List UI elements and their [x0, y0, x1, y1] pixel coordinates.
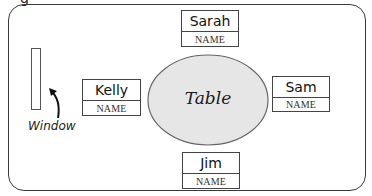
window-arrow-icon: [51, 91, 59, 118]
seat-card-left: Kelly NAME: [82, 79, 141, 116]
seat-name: Kelly: [83, 80, 140, 101]
seat-name-label: NAME: [83, 101, 140, 115]
seat-name-label: NAME: [273, 98, 329, 111]
seat-card-top: Sarah NAME: [181, 10, 239, 47]
seat-card-right: Sam NAME: [272, 76, 330, 112]
window-arrowhead-icon: [49, 88, 57, 96]
table-label: Table: [168, 88, 248, 108]
seat-card-bottom: Jim NAME: [182, 152, 240, 189]
seat-name-label: NAME: [182, 32, 238, 46]
seat-name: Jim: [183, 153, 239, 174]
window-marker: [31, 48, 41, 110]
seat-name: Sarah: [182, 11, 238, 32]
seat-name: Sam: [273, 77, 329, 98]
window-label: Window: [28, 119, 88, 133]
seat-name-label: NAME: [183, 174, 239, 188]
